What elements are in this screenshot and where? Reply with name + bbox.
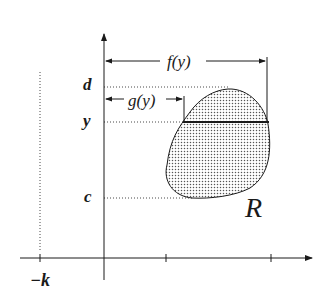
region-r-shape [166, 89, 270, 198]
label-c: c [84, 187, 92, 206]
label-neg-k: −k [30, 270, 50, 290]
label-y: y [81, 111, 91, 130]
g-of-y-label: g(y) [128, 91, 156, 110]
region-diagram: f(y) g(y) d y c −k R [0, 0, 325, 307]
label-d: d [83, 75, 92, 94]
f-of-y-label: f(y) [167, 52, 191, 71]
label-region-r: R [244, 192, 262, 223]
